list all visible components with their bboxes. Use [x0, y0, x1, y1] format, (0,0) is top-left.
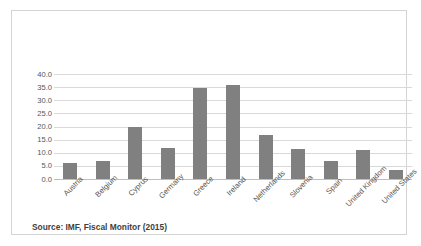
- bar: [291, 149, 305, 179]
- x-axis-tick-label-slot: Ireland: [217, 179, 250, 235]
- bar: [356, 150, 370, 179]
- bar-slot: [379, 74, 412, 179]
- bar-slot: [217, 74, 250, 179]
- y-axis-tick-label: 30.0: [20, 96, 52, 105]
- y-axis-tick-label: 20.0: [20, 122, 52, 131]
- x-axis-tick-label: Ireland: [225, 175, 248, 198]
- y-axis-tick-label: 25.0: [20, 109, 52, 118]
- bar: [193, 88, 207, 179]
- bar: [259, 135, 273, 179]
- bar: [128, 127, 142, 179]
- x-axis-tick-label-slot: United Kingdom: [347, 179, 380, 235]
- figure-frame: 40.035.030.025.020.015.010.05.00.0 Austr…: [11, 10, 407, 235]
- x-axis-tick-label-slot: Netherlands: [249, 179, 282, 235]
- bar-slot: [119, 74, 152, 179]
- x-axis-tick-label: Spain: [324, 176, 344, 196]
- x-axis-tick-label-slot: United States: [379, 179, 412, 235]
- bar: [324, 161, 338, 179]
- source-note: Source: IMF, Fiscal Monitor (2015): [32, 222, 167, 232]
- x-axis-tick-label-slot: Slovenia: [282, 179, 315, 235]
- bar: [161, 148, 175, 180]
- y-axis-tick-label: 5.0: [20, 161, 52, 170]
- bar-slot: [184, 74, 217, 179]
- bar-slot: [152, 74, 185, 179]
- plot-area: [54, 74, 412, 179]
- x-axis-tick-label: Austria: [62, 175, 85, 198]
- bar: [96, 161, 110, 179]
- bar-slot: [282, 74, 315, 179]
- y-axis-tick-label: 40.0: [20, 70, 52, 79]
- bar-slot: [249, 74, 282, 179]
- y-axis-tick-label: 15.0: [20, 135, 52, 144]
- bar: [226, 85, 240, 179]
- y-axis-tick-labels: 40.035.030.025.020.015.010.05.00.0: [20, 69, 52, 185]
- bar-slot: [87, 74, 120, 179]
- y-axis-tick-label: 35.0: [20, 83, 52, 92]
- chart-screenshot: 40.035.030.025.020.015.010.05.00.0 Austr…: [0, 0, 421, 246]
- y-axis-tick-label: 0.0: [20, 175, 52, 184]
- bar-slot: [347, 74, 380, 179]
- x-axis-tick-label-slot: Greece: [184, 179, 217, 235]
- bar-slot: [314, 74, 347, 179]
- bar-slot: [54, 74, 87, 179]
- x-axis-tick-label-slot: Spain: [314, 179, 347, 235]
- y-axis-tick-label: 10.0: [20, 148, 52, 157]
